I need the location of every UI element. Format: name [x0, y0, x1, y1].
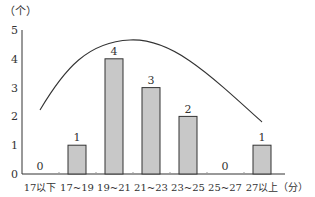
y-tick: 0 — [11, 168, 18, 181]
data-label: 0 — [222, 160, 229, 173]
bar-19-21 — [105, 59, 123, 174]
x-tick-labels: 17以下 17~19 19~21 21~23 23~25 25~27 27以上 … — [24, 182, 308, 193]
y-tick: 2 — [11, 110, 18, 123]
data-label: 4 — [111, 45, 118, 58]
bar-21-23 — [142, 88, 160, 174]
bar-17-19 — [68, 145, 86, 174]
y-tick: 3 — [11, 82, 18, 95]
data-label: 3 — [148, 74, 155, 87]
y-tick: 5 — [11, 24, 18, 37]
data-label: 1 — [259, 131, 266, 144]
y-tick: 4 — [11, 53, 18, 66]
bar-23-25 — [179, 116, 197, 174]
x-axis-label: （分） — [278, 182, 308, 193]
x-tick: 17以下 — [24, 182, 57, 193]
x-tick: 23~25 — [171, 182, 205, 193]
y-tick: 1 — [11, 139, 18, 152]
x-tick: 27以上 — [246, 182, 279, 193]
x-tick: 19~21 — [97, 182, 131, 193]
data-label: 0 — [37, 160, 44, 173]
bars — [68, 59, 271, 174]
y-axis-label: （个） — [4, 5, 37, 18]
x-tick: 17~19 — [60, 182, 94, 193]
histogram-chart: （个） 0 1 2 3 4 5 0 1 4 3 2 0 1 — [0, 0, 315, 197]
bar-27-up — [253, 145, 271, 174]
data-label: 1 — [74, 131, 81, 144]
data-label: 2 — [185, 103, 192, 116]
y-tick-labels: 0 1 2 3 4 5 — [11, 24, 18, 181]
x-tick: 21~23 — [134, 182, 168, 193]
x-tick: 25~27 — [208, 182, 242, 193]
